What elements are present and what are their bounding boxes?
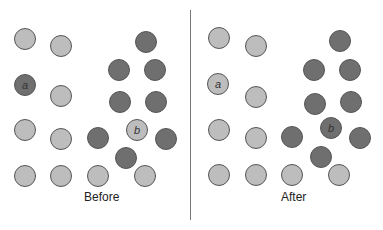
particle bbox=[208, 119, 230, 141]
particle bbox=[245, 86, 267, 108]
particle bbox=[50, 35, 72, 57]
particle bbox=[245, 35, 267, 57]
particle-a: a bbox=[14, 74, 36, 96]
particle bbox=[208, 164, 230, 186]
particle bbox=[50, 165, 72, 187]
particle bbox=[145, 91, 167, 113]
particle-label: a bbox=[215, 78, 221, 90]
particle bbox=[87, 127, 109, 149]
panel-divider bbox=[190, 10, 191, 220]
particle-a: a bbox=[207, 73, 229, 95]
particle bbox=[339, 59, 361, 81]
particle-b: b bbox=[320, 117, 342, 139]
particle bbox=[108, 59, 130, 81]
particle bbox=[304, 93, 326, 115]
particle bbox=[329, 30, 351, 52]
particle-b: b bbox=[126, 119, 148, 141]
particle bbox=[328, 164, 350, 186]
particle bbox=[281, 126, 303, 148]
particle bbox=[303, 59, 325, 81]
particle-label: a bbox=[22, 79, 28, 91]
particle bbox=[144, 59, 166, 81]
particle bbox=[109, 91, 131, 113]
panel-caption: After bbox=[281, 190, 306, 204]
particle-label: b bbox=[134, 124, 140, 136]
panel-caption: Before bbox=[84, 190, 119, 204]
particle bbox=[14, 28, 36, 50]
particle bbox=[50, 128, 72, 150]
particle bbox=[245, 164, 267, 186]
particle bbox=[87, 165, 109, 187]
before-after-diagram: abBeforeabAfter bbox=[0, 0, 383, 230]
particle bbox=[134, 165, 156, 187]
particle bbox=[155, 128, 177, 150]
particle bbox=[281, 164, 303, 186]
particle bbox=[349, 127, 371, 149]
particle bbox=[50, 85, 72, 107]
particle bbox=[14, 119, 36, 141]
particle bbox=[115, 147, 137, 169]
particle bbox=[340, 91, 362, 113]
particle bbox=[245, 127, 267, 149]
particle bbox=[135, 31, 157, 53]
particle bbox=[208, 27, 230, 49]
particle-label: b bbox=[328, 122, 334, 134]
particle bbox=[310, 146, 332, 168]
particle bbox=[14, 165, 36, 187]
